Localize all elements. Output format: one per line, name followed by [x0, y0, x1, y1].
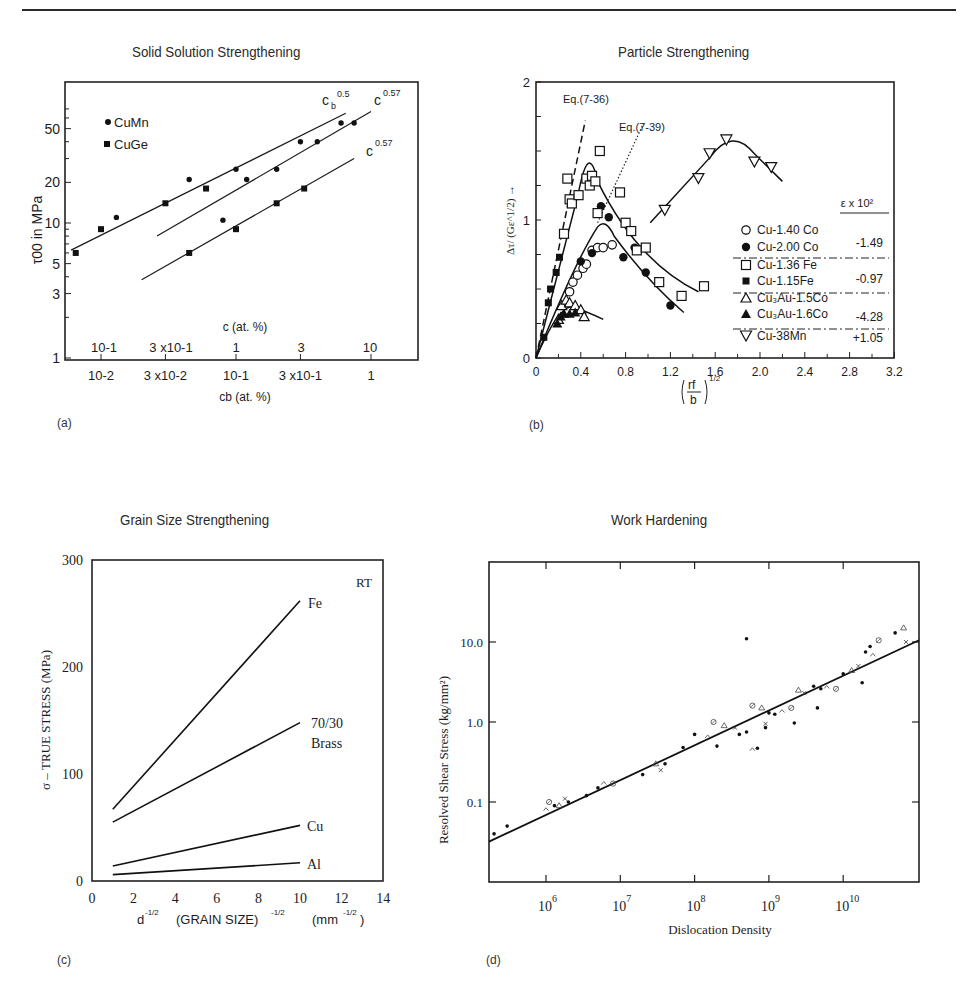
data-points — [492, 625, 908, 836]
x-axis-label: Dislocation Density — [668, 922, 772, 937]
chart-work-hardening: 10610710810910100.11.010.0 Resolved Shea… — [0, 0, 969, 1004]
x-tick-label: 10 — [687, 899, 701, 914]
plot-frame — [489, 562, 919, 882]
svg-text:7: 7 — [626, 893, 631, 904]
x-tick-label: 10 — [612, 899, 626, 914]
y-tick-label: 10.0 — [460, 635, 483, 650]
svg-text:9: 9 — [775, 893, 780, 904]
svg-text:6: 6 — [552, 893, 557, 904]
x-tick-label: 10 — [761, 899, 775, 914]
svg-text:10: 10 — [849, 893, 859, 904]
y-tick-label: 0.1 — [467, 795, 483, 810]
y-axis-label: Resolved Shear Stress (kg/mm²) — [436, 676, 451, 844]
x-tick-label: 10 — [538, 899, 552, 914]
svg-text:8: 8 — [701, 893, 706, 904]
y-tick-label: 1.0 — [467, 715, 483, 730]
fit-line — [489, 640, 919, 841]
x-tick-label: 10 — [835, 899, 849, 914]
axis-ticks: 10610710810910100.11.010.0 — [460, 562, 919, 914]
